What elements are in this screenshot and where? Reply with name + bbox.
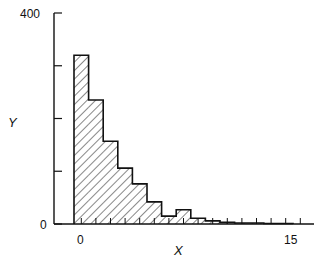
x-axis-label: X bbox=[173, 243, 184, 258]
y-axis-label: Y bbox=[8, 115, 18, 130]
y-tick-label-400: 400 bbox=[20, 7, 40, 21]
x-tick-label-0: 0 bbox=[77, 233, 84, 247]
y-tick-label-0: 0 bbox=[40, 218, 47, 232]
histogram-bars bbox=[74, 55, 293, 224]
histogram-bar bbox=[89, 100, 104, 224]
histogram-bar bbox=[74, 55, 89, 224]
histogram-bar bbox=[132, 184, 147, 224]
x-tick-label-15: 15 bbox=[284, 233, 298, 247]
histogram-chart: 400 0 0 15 Y X bbox=[0, 0, 327, 267]
histogram-bar bbox=[118, 168, 133, 224]
histogram-bar bbox=[103, 141, 118, 224]
y-ticks bbox=[54, 13, 62, 224]
